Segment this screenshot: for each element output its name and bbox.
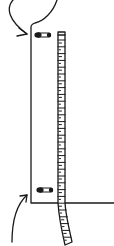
curved-arrow-icon <box>12 195 27 242</box>
garment-outline <box>31 0 114 203</box>
illustration-svg <box>0 0 114 246</box>
garment-measuring-illustration <box>0 0 114 246</box>
safety-pin-icon <box>35 33 51 37</box>
curved-arrow-icon <box>9 0 27 36</box>
safety-pin-icon <box>37 188 53 192</box>
